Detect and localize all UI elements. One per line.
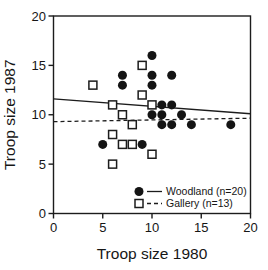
- woodland-point: [167, 100, 176, 109]
- y-tick-label: 5: [39, 157, 46, 172]
- woodland-point: [148, 51, 157, 60]
- gallery-point: [118, 111, 126, 119]
- woodland-point: [148, 81, 157, 90]
- y-tick-label: 15: [32, 58, 46, 73]
- plot-svg: 05101520 05101520 Troop size 1980 Troop …: [0, 0, 268, 270]
- x-tick-label: 20: [243, 220, 257, 235]
- x-tick-label: 5: [99, 220, 106, 235]
- woodland-point: [118, 71, 127, 80]
- woodland-point: [187, 120, 196, 129]
- y-axis-ticks: 05101520: [32, 9, 54, 222]
- woodland-point: [148, 71, 157, 80]
- gallery-point: [109, 101, 117, 109]
- scatter-plot-figure: 05101520 05101520 Troop size 1980 Troop …: [0, 0, 268, 270]
- data-points: [89, 51, 235, 168]
- gallery-point: [89, 81, 97, 89]
- y-tick-label: 20: [32, 9, 46, 24]
- woodland-point: [226, 120, 235, 129]
- legend-woodland-marker-icon: [135, 187, 144, 196]
- woodland-point: [98, 140, 107, 149]
- woodland-point: [177, 110, 186, 119]
- legend-woodland-label: Woodland (n=20): [166, 185, 247, 197]
- gallery-point: [109, 160, 117, 168]
- x-axis-title: Troop size 1980: [97, 245, 208, 262]
- woodland-point: [167, 71, 176, 80]
- woodland-point: [157, 100, 166, 109]
- x-axis-ticks: 05101520: [50, 214, 258, 236]
- legend: Woodland (n=20) Gallery (n=13): [135, 185, 247, 209]
- gallery-point: [128, 121, 136, 129]
- legend-gallery-marker-icon: [135, 200, 143, 208]
- gallery-point: [138, 61, 146, 69]
- woodland-point: [118, 81, 127, 90]
- woodland-point: [157, 110, 166, 119]
- gallery-point: [138, 91, 146, 99]
- y-tick-label: 0: [39, 206, 46, 221]
- gallery-point: [109, 131, 117, 139]
- x-tick-label: 15: [194, 220, 208, 235]
- woodland-point: [157, 120, 166, 129]
- gallery-point: [148, 150, 156, 158]
- woodland-point: [138, 140, 147, 149]
- woodland-point: [148, 110, 157, 119]
- woodland-point: [167, 120, 176, 129]
- gallery-point: [128, 140, 136, 148]
- x-tick-label: 10: [145, 220, 159, 235]
- y-tick-label: 10: [32, 107, 46, 122]
- gallery-point: [148, 101, 156, 109]
- legend-gallery-label: Gallery (n=13): [166, 197, 233, 209]
- x-tick-label: 0: [50, 220, 57, 235]
- y-axis-title: Troop size 1987: [1, 59, 18, 170]
- gallery-point: [118, 140, 126, 148]
